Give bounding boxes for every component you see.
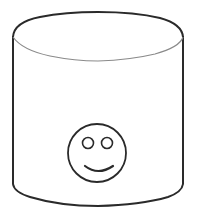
diagram-canvas [0,0,220,219]
right-eye [102,138,113,149]
smile [85,166,113,171]
face-outline [68,124,126,182]
cylinder-diagram [0,0,220,219]
cylinder-top-rim-back [13,12,183,37]
cylinder [13,12,183,206]
smiley-face-icon [68,124,126,182]
left-eye [83,138,94,149]
cylinder-top-rim-front [13,37,183,61]
